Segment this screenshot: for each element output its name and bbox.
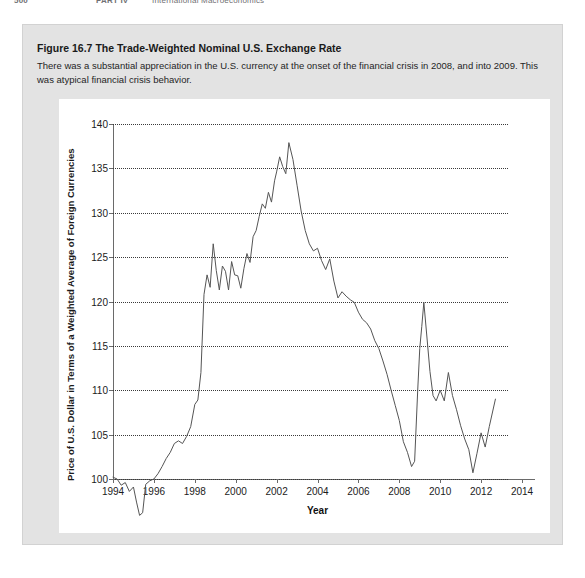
x-tick-mark-1996 [154,479,155,483]
x-tick-mark-2012 [481,479,482,483]
running-head-title: International Macroeconomics [152,0,264,5]
x-tick-label-2004: 2004 [306,486,328,497]
y-tick-label-130: 130 [91,207,108,218]
x-tick-mark-2014 [522,479,523,483]
x-tick-mark-2006 [358,479,359,483]
running-head-part: PART IV [96,0,128,5]
x-tick-mark-2002 [277,479,278,483]
figure-description: There was a substantial appreciation in … [37,59,548,86]
y-tick-label-110: 110 [92,385,108,396]
x-tick-label-2012: 2012 [470,486,492,497]
gridline-y-100 [113,479,508,480]
x-tick-mark-2008 [399,479,400,483]
series-layer [113,124,522,479]
x-tick-label-2008: 2008 [388,486,410,497]
x-tick-mark-2004 [318,479,319,483]
y-tick-label-100: 100 [91,474,108,485]
figure-container: Figure 16.7 The Trade-Weighted Nominal U… [22,24,563,545]
y-tick-label-140: 140 [91,119,108,130]
x-tick-label-1996: 1996 [143,486,165,497]
y-tick-label-125: 125 [91,252,108,263]
x-tick-mark-2010 [440,479,441,483]
x-tick-label-1998: 1998 [184,486,206,497]
series-line-0 [113,143,495,516]
running-head: 500 PART IV International Macroeconomics [0,0,585,9]
figure-title-text: The Trade-Weighted Nominal U.S. Exchange… [95,42,341,54]
x-tick-label-2014: 2014 [511,486,533,497]
y-tick-label-120: 120 [91,296,108,307]
x-tick-label-2000: 2000 [225,486,247,497]
y-axis-title: Price of U.S. Dollar in Terms of a Weigh… [65,151,81,481]
y-tick-label-105: 105 [91,429,108,440]
x-axis-title: Year [113,505,522,516]
chart-panel: Price of U.S. Dollar in Terms of a Weigh… [59,99,550,533]
y-tick-label-115: 115 [92,340,108,351]
y-tick-label-135: 135 [91,163,108,174]
x-tick-label-2002: 2002 [265,486,287,497]
figure-number: Figure 16.7 [37,42,92,54]
plot-area: Year 10010511011512012513013514019941996… [113,124,522,479]
x-tick-label-2006: 2006 [347,486,369,497]
figure-title-line: Figure 16.7 The Trade-Weighted Nominal U… [37,41,550,55]
x-tick-mark-2000 [236,479,237,483]
x-tick-label-2010: 2010 [429,486,451,497]
x-tick-label-1994: 1994 [102,486,124,497]
x-tick-mark-1998 [195,479,196,483]
figure-caption: Figure 16.7 The Trade-Weighted Nominal U… [37,41,550,86]
x-tick-mark-1994 [113,479,114,483]
page-folio: 500 [14,0,28,5]
